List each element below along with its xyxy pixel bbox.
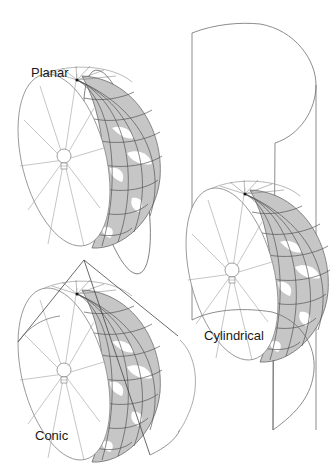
planar-projection	[2, 64, 164, 279]
cylindrical-label: Cylindrical	[204, 328, 264, 343]
conic-label: Conic	[35, 428, 68, 443]
cylindrical-projection	[170, 23, 330, 432]
conic-projection	[2, 260, 180, 470]
planar-label: Planar	[31, 65, 69, 80]
